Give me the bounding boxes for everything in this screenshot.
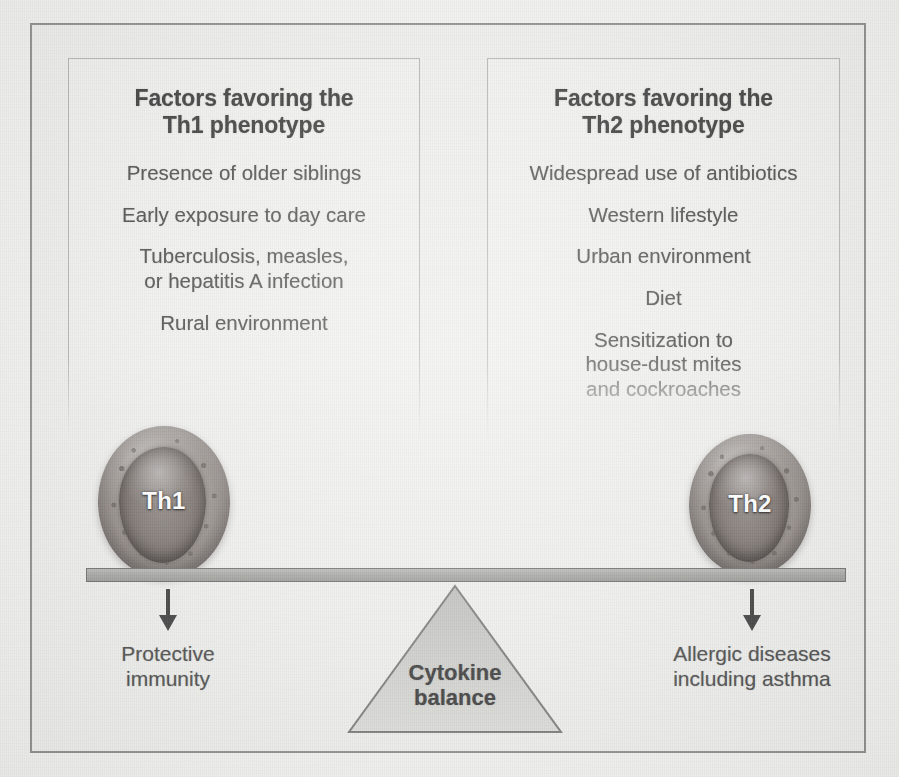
factor-item: Diet (498, 286, 829, 311)
factor-item: Urban environment (498, 244, 829, 269)
arrow-down-icon (739, 588, 765, 632)
factors-panel-th1-content: Factors favoring the Th1 phenotype Prese… (69, 59, 419, 335)
factors-panel-th1: Factors favoring the Th1 phenotype Prese… (68, 58, 420, 440)
figure-canvas: Factors favoring the Th1 phenotype Prese… (0, 0, 899, 777)
lymphocyte-cell-icon-th1: Th1 (98, 426, 230, 578)
outcome-allergic-diseases: Allergic diseases including asthma (632, 588, 872, 691)
factor-item: Early exposure to day care (79, 203, 409, 228)
lymphocyte-cell-icon-th2: Th2 (689, 434, 811, 576)
cell-label-th1: Th1 (98, 487, 230, 515)
fulcrum-label: Cytokine balance (346, 660, 564, 711)
factor-item: Tuberculosis, measles, or hepatitis A in… (79, 244, 409, 293)
factor-item: Western lifestyle (498, 203, 829, 228)
balance-beam-icon (86, 568, 846, 582)
factor-item: Widespread use of antibiotics (498, 161, 829, 186)
factors-panel-th1-heading: Factors favoring the Th1 phenotype (79, 85, 409, 139)
factors-panel-th2: Factors favoring the Th2 phenotype Wides… (487, 58, 840, 440)
outcome-label-right: Allergic diseases including asthma (632, 641, 872, 691)
factor-item: Sensitization to house-dust mites and co… (498, 328, 829, 402)
outcome-label-left: Protective immunity (48, 641, 288, 691)
triangle-fulcrum-icon: Cytokine balance (346, 583, 564, 735)
outcome-protective-immunity: Protective immunity (48, 588, 288, 691)
factors-panel-th2-content: Factors favoring the Th2 phenotype Wides… (488, 59, 839, 401)
factor-item: Presence of older siblings (79, 161, 409, 186)
factors-panel-th2-heading: Factors favoring the Th2 phenotype (498, 85, 829, 139)
cell-label-th2: Th2 (689, 490, 811, 518)
factor-item: Rural environment (79, 311, 409, 336)
arrow-down-icon (155, 588, 181, 632)
